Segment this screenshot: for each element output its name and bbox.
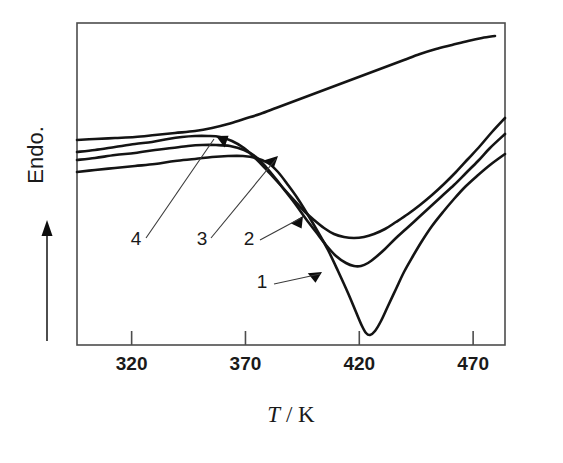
curve-label-2: 2 [244,228,255,249]
x-axis-unit: K [298,402,315,427]
leader-line-4 [146,139,214,238]
x-axis-tick-label: 470 [457,353,489,374]
curve-label-3: 3 [197,228,208,249]
curve-4 [77,36,495,140]
x-axis-tick-label: 370 [230,353,262,374]
curve-labels: 1234 [131,228,268,292]
dsc-thermogram-figure: 320370420470 1234 Endo. T / K [0,0,563,463]
endo-arrow-head-icon [42,220,53,236]
y-axis-title: Endo. [23,126,48,184]
endo-direction-arrow [42,220,53,341]
curve-pointer-arrow-icon-2 [291,213,308,231]
leader-line-2 [260,218,301,240]
x-axis-title-text: T / K [267,402,315,427]
curve-group [77,36,505,335]
curve-label-4: 4 [131,228,142,249]
x-axis-separator: / [280,402,298,427]
x-axis-tick-label: 320 [116,353,148,374]
x-axis-ticks [132,331,473,345]
x-axis-title: T / K [267,402,315,427]
curve-label-1: 1 [257,271,268,292]
x-axis-tick-label: 420 [343,353,375,374]
curve-arrow-markers [213,131,325,284]
x-axis-tick-labels: 320370420470 [116,353,489,374]
leader-line-3 [211,159,276,238]
plot-frame [77,23,505,345]
